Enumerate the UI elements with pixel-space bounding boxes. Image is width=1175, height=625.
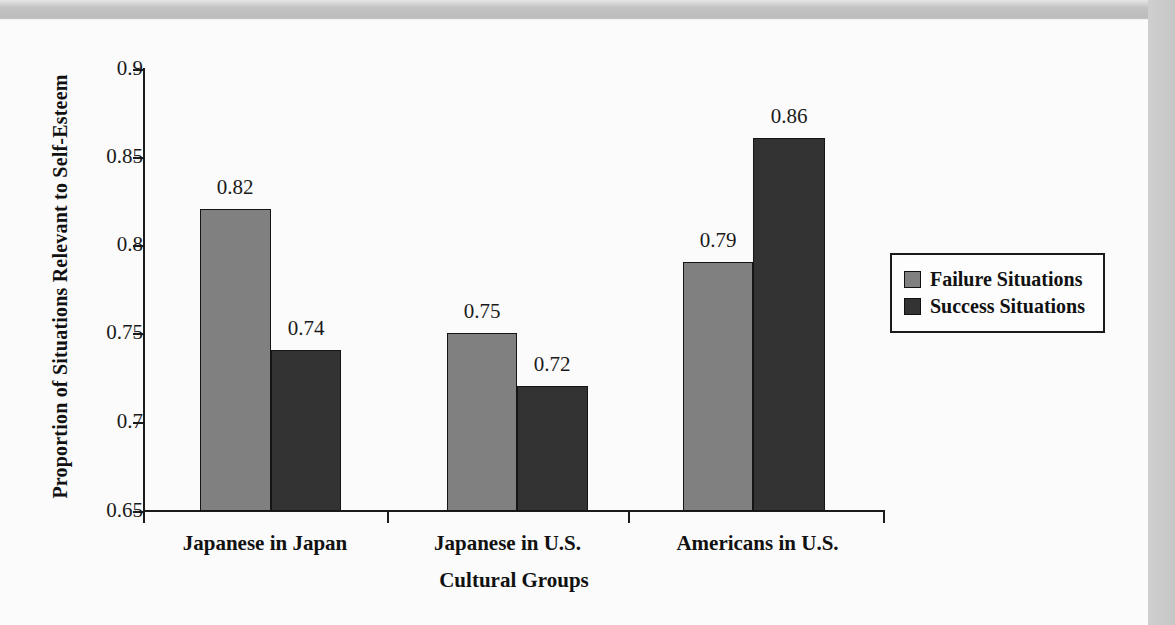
failure-swatch-icon — [904, 271, 921, 288]
bar-success-americans-in-us[interactable] — [753, 138, 825, 511]
x-category-label-0: Japanese in Japan — [155, 531, 375, 556]
chart-legend: Failure Situations Success Situations — [890, 253, 1105, 333]
y-tick-label-2: 0.8 — [87, 232, 143, 257]
x-tick-2 — [628, 510, 630, 523]
y-axis-line — [143, 68, 145, 512]
y-tick-label-0: 0.9 — [87, 56, 143, 81]
bar-success-japanese-in-us[interactable] — [517, 386, 588, 511]
y-axis-title: Proportion of Situations Relevant to Sel… — [49, 57, 72, 517]
legend-item-success[interactable]: Success Situations — [904, 295, 1093, 318]
bar-value-failure-1: 0.75 — [437, 299, 527, 324]
success-swatch-icon — [904, 298, 921, 315]
y-tick-label-1: 0.85 — [87, 144, 143, 169]
bar-success-japanese-in-japan[interactable] — [271, 350, 341, 511]
legend-label-failure: Failure Situations — [930, 268, 1082, 291]
bar-value-success-0: 0.74 — [261, 316, 351, 341]
bar-value-success-1: 0.72 — [507, 352, 597, 377]
x-category-label-2: Americans in U.S. — [645, 531, 870, 556]
bar-value-success-2: 0.86 — [744, 104, 834, 129]
y-tick-label-4: 0.7 — [87, 409, 143, 434]
x-tick-1 — [387, 510, 389, 523]
y-tick-label-3: 0.75 — [87, 320, 143, 345]
legend-item-failure[interactable]: Failure Situations — [904, 268, 1093, 291]
bar-failure-americans-in-us[interactable] — [683, 262, 753, 511]
bar-value-failure-2: 0.79 — [673, 228, 763, 253]
scan-right-margin — [1148, 0, 1175, 625]
bar-value-failure-0: 0.82 — [190, 175, 280, 200]
scan-page-shadow — [0, 0, 1175, 22]
x-tick-end — [883, 510, 885, 523]
x-axis-title: Cultural Groups — [143, 568, 885, 593]
bar-chart: Proportion of Situations Relevant to Sel… — [0, 20, 1148, 625]
x-tick-start — [143, 510, 145, 523]
scanned-page: Proportion of Situations Relevant to Sel… — [0, 20, 1148, 625]
bar-failure-japanese-in-japan[interactable] — [200, 209, 271, 511]
legend-label-success: Success Situations — [930, 295, 1085, 318]
x-category-label-1: Japanese in U.S. — [400, 531, 615, 556]
y-tick-label-5: 0.65 — [87, 498, 143, 523]
